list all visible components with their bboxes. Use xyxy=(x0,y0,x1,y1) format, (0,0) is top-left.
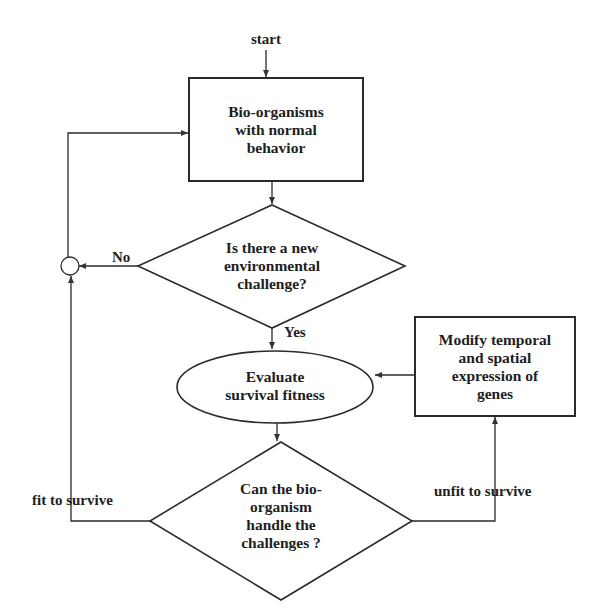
edge-label-unfit: unfit to survive xyxy=(434,482,532,500)
new-challenge-text: Is there a new environmental challenge? xyxy=(200,232,344,300)
edge-label-yes: Yes xyxy=(284,323,306,341)
normal-behavior-text: Bio-organisms with normal behavior xyxy=(189,80,363,180)
evaluate-text: Evaluate survival fitness xyxy=(190,364,360,408)
edge-label-fit: fit to survive xyxy=(32,491,113,509)
junction-circle xyxy=(61,257,79,275)
modify-genes-text: Modify temporal and spatial expression o… xyxy=(415,319,575,415)
start-label: start xyxy=(238,30,294,48)
edge-label-no: No xyxy=(112,248,130,266)
can-handle-text: Can the bio- organism handle the challen… xyxy=(215,476,347,556)
